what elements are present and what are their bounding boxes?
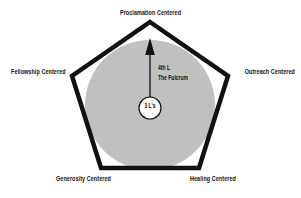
vertex-label-generosity: Generosity Centered [56, 176, 111, 183]
vertex-label-healing: Healing Centered [190, 176, 236, 183]
vertex-label-outreach: Outreach Centered [245, 69, 295, 76]
vertex-label-proclamation: Proclamation Centered [0, 10, 301, 17]
pentagon-diagram: Proclamation Centered Fellowship Centere… [0, 0, 301, 198]
fulcrum-annotation-line-1: 4th L [158, 64, 170, 71]
vertex-label-fellowship: Fellowship Centered [11, 69, 66, 76]
diagram-canvas [0, 0, 301, 198]
center-circle-label: 3 L's [133, 103, 167, 110]
fulcrum-annotation-line-2: The Fulcrum [158, 74, 188, 81]
